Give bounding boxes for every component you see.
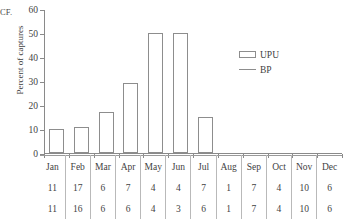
month-header-cell: Jun (166, 156, 191, 178)
table-row: 111767447174106 (40, 177, 342, 198)
plot-inner: 0102030405060 (44, 10, 342, 154)
y-tick-label: 10 (29, 124, 39, 136)
legend-entry-bp: BP (239, 62, 279, 77)
month-header-cell: Jan (40, 156, 65, 178)
table-cell: 6 (90, 177, 115, 198)
month-header-cell: Aug (216, 156, 241, 178)
table-cell: 7 (115, 177, 140, 198)
table-cell: 16 (65, 198, 90, 219)
y-tick-label: 60 (29, 4, 39, 16)
table-cell: 6 (90, 198, 115, 219)
month-header-cell: Oct (266, 156, 291, 178)
table-cell: 7 (191, 177, 216, 198)
bar-series-upu (44, 10, 342, 154)
month-header-cell: May (141, 156, 166, 178)
table-cell: 10 (292, 198, 317, 219)
table-cell: 4 (141, 177, 166, 198)
month-header-cell: Dec (317, 156, 342, 178)
table-cell: 4 (166, 177, 191, 198)
bar-jan (49, 129, 64, 153)
month-header-cell: Mar (90, 156, 115, 178)
table-cell: 7 (241, 198, 266, 219)
caption-fragment: CF. (0, 7, 12, 17)
table-cell: 4 (141, 198, 166, 219)
month-header-cell: Apr (115, 156, 140, 178)
x-tick-mark (342, 154, 343, 158)
table-cell: 6 (115, 198, 140, 219)
monthly-data-table: JanFebMarAprMayJunJulAugSepOctNovDec1117… (40, 155, 342, 219)
month-header-cell: Nov (292, 156, 317, 178)
table-header-row: JanFebMarAprMayJunJulAugSepOctNovDec (40, 156, 342, 178)
plot-area: 0102030405060 (44, 10, 342, 154)
legend-swatch-rectangle-icon (239, 51, 256, 58)
legend-label-upu: UPU (260, 50, 279, 60)
month-header-cell: Sep (241, 156, 266, 178)
y-tick-label: 40 (29, 52, 39, 64)
y-tick-label: 20 (29, 100, 39, 112)
table-cell: 3 (166, 198, 191, 219)
table-cell: 6 (191, 198, 216, 219)
figure-container: CF. Percent of captures 0102030405060 UP… (0, 0, 346, 219)
chart-legend: UPU BP (239, 47, 279, 77)
legend-swatch-line-icon (239, 69, 256, 70)
y-axis-title: Percent of captures (15, 5, 25, 115)
table-cell: 11 (40, 198, 65, 219)
month-header-cell: Jul (191, 156, 216, 178)
table-cell: 7 (241, 177, 266, 198)
table-cell: 4 (266, 198, 291, 219)
month-header-cell: Feb (65, 156, 90, 178)
y-tick-label: 30 (29, 76, 39, 88)
bar-may (148, 33, 163, 153)
table-cell: 17 (65, 177, 90, 198)
table-cell: 10 (292, 177, 317, 198)
y-tick-label: 0 (33, 148, 38, 160)
bar-mar (99, 112, 114, 153)
table-cell: 1 (216, 177, 241, 198)
table-cell: 4 (266, 177, 291, 198)
legend-label-bp: BP (260, 65, 272, 75)
table-cell: 1 (216, 198, 241, 219)
bar-jul (198, 117, 213, 153)
table-cell: 6 (317, 177, 342, 198)
bar-apr (123, 83, 138, 153)
bar-jun (173, 33, 188, 153)
legend-entry-upu: UPU (239, 47, 279, 62)
y-tick-label: 50 (29, 28, 39, 40)
table-cell: 11 (40, 177, 65, 198)
table-cell: 6 (317, 198, 342, 219)
bar-feb (74, 127, 89, 153)
table-row: 111666436174106 (40, 198, 342, 219)
